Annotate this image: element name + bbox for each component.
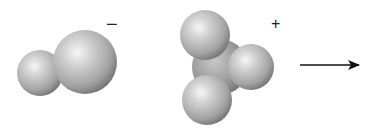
positive-charge-label: + [271,16,280,32]
anion-molecule [17,30,117,96]
cation-molecule [180,10,274,125]
cation-right-atom [228,44,274,90]
diagram-canvas: − + [0,0,367,133]
cation-top-atom [180,10,230,60]
anion-large-atom [53,30,117,94]
cation-bottom-atom [182,75,232,125]
negative-charge-label: − [106,14,118,34]
